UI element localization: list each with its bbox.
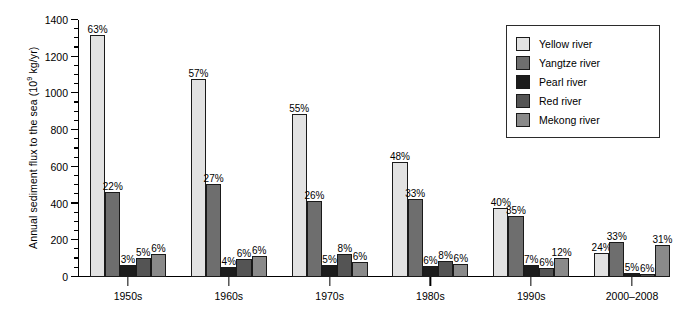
bar-yangtze-river[interactable]: 26% [307, 201, 322, 277]
bar-mekong-river[interactable]: 31% [655, 245, 670, 277]
y-tick-major [71, 239, 78, 240]
bar-mekong-river[interactable]: 12% [554, 258, 569, 277]
legend-label: Mekong river [539, 114, 600, 126]
bar-group: 63%22%3%5%6%1950s [90, 20, 166, 277]
y-tick-label: 200 [50, 234, 68, 246]
y-axis-title: Annual sediment flux to the sea (109 kg/… [25, 18, 39, 278]
bar-slot: 57% [191, 20, 206, 277]
x-tick [631, 277, 632, 286]
bar-value-label: 8% [438, 250, 452, 261]
bar-yellow-river[interactable]: 63% [90, 35, 105, 277]
bar-value-label: 6% [539, 257, 553, 268]
bar-group-bars: 48%33%6%8%6% [392, 20, 468, 277]
bar-yangtze-river[interactable]: 33% [609, 242, 624, 277]
y-tick-minor [74, 74, 78, 75]
bar-pearl-river[interactable]: 3% [120, 265, 135, 277]
y-tick-minor [74, 257, 78, 258]
y-tick-label: 400 [50, 198, 68, 210]
y-tick-minor [74, 221, 78, 222]
legend-item-yangtze-river[interactable]: Yangtze river [516, 53, 649, 72]
bar-pearl-river[interactable]: 6% [423, 266, 438, 277]
bar-slot: 8% [438, 20, 453, 277]
bar-slot: 4% [221, 20, 236, 277]
bar-yangtze-river[interactable]: 35% [508, 216, 523, 277]
bar-red-river[interactable]: 8% [337, 254, 352, 277]
bar-group-bars: 57%27%4%6%6% [191, 20, 267, 277]
bar-group: 48%33%6%8%6%1980s [392, 20, 468, 277]
bar-yellow-river[interactable]: 24% [594, 253, 609, 277]
legend-swatch [516, 37, 530, 51]
bar-red-river[interactable]: 5% [136, 258, 151, 277]
bar-group-bars: 55%26%5%8%6% [292, 20, 368, 277]
bar-pearl-river[interactable]: 7% [524, 265, 539, 277]
bar-pearl-river[interactable]: 5% [322, 265, 337, 277]
bar-slot: 6% [453, 20, 468, 277]
x-tick-label: 2000–2008 [606, 290, 659, 302]
bar-mekong-river[interactable]: 6% [151, 254, 166, 277]
x-tick-label: 1980s [416, 290, 445, 302]
legend-item-mekong-river[interactable]: Mekong river [516, 110, 649, 129]
bar-value-label: 5% [625, 262, 639, 273]
bar-yellow-river[interactable]: 48% [392, 162, 407, 277]
bar-group: 57%27%4%6%6%1960s [191, 20, 267, 277]
bar-red-river[interactable]: 6% [640, 274, 655, 277]
y-tick-major [71, 129, 78, 130]
bar-mekong-river[interactable]: 6% [252, 256, 267, 277]
bar-group-bars: 63%22%3%5%6% [90, 20, 166, 277]
bar-mekong-river[interactable]: 6% [352, 262, 367, 277]
legend-swatch [516, 94, 530, 108]
x-tick [329, 277, 330, 286]
bar-yellow-river[interactable]: 40% [493, 208, 508, 277]
bar-yangtze-river[interactable]: 27% [206, 184, 221, 277]
legend-label: Red river [539, 95, 582, 107]
y-tick-minor [74, 212, 78, 213]
y-tick-minor [74, 138, 78, 139]
bar-red-river[interactable]: 8% [438, 261, 453, 277]
bar-slot: 5% [136, 20, 151, 277]
y-tick-label: 0 [62, 271, 68, 283]
y-tick-major [71, 166, 78, 167]
bar-slot: 5% [322, 20, 337, 277]
bar-value-label: 6% [151, 243, 165, 254]
bar-slot: 8% [337, 20, 352, 277]
y-tick-minor [74, 175, 78, 176]
legend-item-red-river[interactable]: Red river [516, 91, 649, 110]
bar-slot: 48% [392, 20, 407, 277]
bar-mekong-river[interactable]: 6% [453, 264, 468, 277]
y-tick-major [71, 56, 78, 57]
legend-label: Yangtze river [539, 57, 600, 69]
bar-red-river[interactable]: 6% [539, 268, 554, 277]
y-tick-minor [74, 28, 78, 29]
y-tick-label: 1000 [45, 87, 68, 99]
legend-swatch [516, 113, 530, 127]
legend-item-yellow-river[interactable]: Yellow river [516, 34, 649, 53]
bar-slot: 6% [151, 20, 166, 277]
x-tick-label: 1970s [315, 290, 344, 302]
legend-label: Yellow river [539, 38, 592, 50]
x-tick [531, 277, 532, 286]
y-tick-label: 1400 [45, 14, 68, 26]
bar-slot: 6% [352, 20, 367, 277]
bar-slot: 26% [307, 20, 322, 277]
y-tick-minor [74, 184, 78, 185]
y-tick-minor [74, 37, 78, 38]
bar-yangtze-river[interactable]: 22% [105, 192, 120, 277]
bar-value-label: 31% [652, 234, 672, 245]
y-axis-title-prefix: Annual sediment flux to the sea (10 [27, 81, 39, 249]
bar-value-label: 12% [552, 247, 572, 258]
y-tick-minor [74, 101, 78, 102]
y-tick-minor [74, 83, 78, 84]
bar-pearl-river[interactable]: 4% [221, 267, 236, 277]
y-tick-minor [74, 193, 78, 194]
bar-red-river[interactable]: 6% [236, 259, 251, 277]
bar-slot: 27% [206, 20, 221, 277]
x-axis-line [78, 276, 670, 277]
bar-value-label: 5% [322, 254, 336, 265]
legend: Yellow riverYangtze riverPearl riverRed … [506, 25, 660, 138]
legend-item-pearl-river[interactable]: Pearl river [516, 72, 649, 91]
legend-rows: Yellow riverYangtze riverPearl riverRed … [516, 34, 649, 129]
y-axis-title-suffix: kg/yr) [27, 47, 39, 77]
x-tick-label: 1990s [517, 290, 546, 302]
bar-yangtze-river[interactable]: 33% [408, 199, 423, 277]
y-tick-minor [74, 230, 78, 231]
